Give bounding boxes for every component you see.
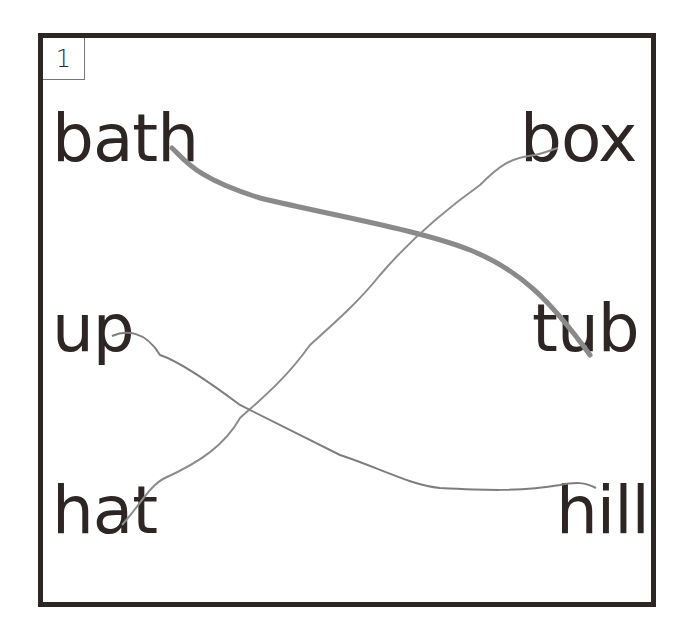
line-bath-tub xyxy=(172,148,590,355)
line-hat-box xyxy=(122,148,558,525)
match-lines xyxy=(0,0,687,629)
line-up-hill xyxy=(112,333,596,490)
